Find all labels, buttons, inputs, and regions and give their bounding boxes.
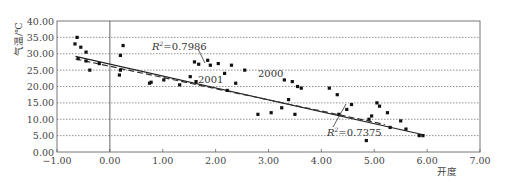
tick-labels: 0.005.0010.0015.0020.0025.0030.0035.0040… bbox=[27, 16, 491, 167]
x-tick-label: 7.00 bbox=[469, 155, 490, 166]
x-axis-title: 开度 bbox=[437, 166, 457, 177]
data-point bbox=[287, 98, 290, 101]
data-point bbox=[98, 62, 101, 65]
data-point bbox=[84, 51, 87, 54]
y-tick-label: 10.00 bbox=[27, 114, 54, 125]
data-point bbox=[256, 113, 259, 116]
x-tick-label: 4.00 bbox=[311, 155, 332, 166]
x-tick-label: 2.00 bbox=[205, 155, 226, 166]
y-tick-label: 30.00 bbox=[27, 48, 54, 59]
data-point bbox=[193, 60, 196, 63]
data-point bbox=[399, 119, 402, 122]
trend-line-2000 bbox=[76, 56, 425, 135]
data-point bbox=[293, 113, 296, 116]
data-point bbox=[77, 57, 80, 60]
data-point bbox=[178, 83, 181, 86]
data-point bbox=[280, 106, 283, 109]
r2-label-2000: R2=0.7375 bbox=[326, 126, 382, 138]
data-point bbox=[75, 36, 78, 39]
data-point bbox=[197, 63, 200, 66]
data-point bbox=[421, 134, 424, 137]
data-point bbox=[296, 85, 299, 88]
data-point bbox=[234, 82, 237, 85]
data-point bbox=[300, 87, 303, 90]
r2-label-2001: R2=0.7986 bbox=[151, 40, 207, 52]
data-point bbox=[217, 62, 220, 65]
data-point bbox=[389, 126, 392, 129]
data-point bbox=[150, 81, 153, 84]
data-point bbox=[119, 54, 122, 57]
annotations: R2=0.7986 2001 2000 R2=0.7375 开度 气温/℃ bbox=[13, 22, 457, 177]
data-point bbox=[365, 139, 368, 142]
x-tick-label: 0.00 bbox=[99, 155, 120, 166]
series-label-2001: 2001 bbox=[198, 74, 223, 85]
data-point bbox=[118, 73, 121, 76]
scatter-chart: 0.005.0010.0015.0020.0025.0030.0035.0040… bbox=[0, 0, 506, 182]
y-axis-title: 气温/℃ bbox=[13, 22, 24, 56]
data-point bbox=[226, 89, 229, 92]
y-tick-label: 20.00 bbox=[27, 81, 54, 92]
y-tick-label: 15.00 bbox=[27, 97, 54, 108]
data-point bbox=[418, 134, 421, 137]
data-point bbox=[119, 69, 122, 72]
data-point bbox=[270, 111, 273, 114]
data-point bbox=[367, 118, 370, 121]
y-tick-label: 5.00 bbox=[33, 130, 54, 141]
x-tick-label: 5.00 bbox=[364, 155, 385, 166]
data-point bbox=[375, 101, 378, 104]
data-point bbox=[73, 42, 76, 45]
data-point bbox=[79, 46, 82, 49]
data-point bbox=[206, 59, 209, 62]
data-point bbox=[350, 103, 353, 106]
data-point bbox=[121, 44, 124, 47]
data-point bbox=[370, 114, 373, 117]
series-label-2000: 2000 bbox=[258, 68, 283, 79]
data-point bbox=[223, 72, 226, 75]
data-point bbox=[88, 69, 91, 72]
x-tick-label: 1.00 bbox=[152, 155, 173, 166]
data-point bbox=[378, 105, 381, 108]
data-point bbox=[209, 64, 212, 67]
data-point bbox=[162, 78, 165, 81]
y-tick-label: 35.00 bbox=[27, 32, 54, 43]
data-point bbox=[189, 75, 192, 78]
data-point bbox=[243, 69, 246, 72]
trend-lines bbox=[76, 56, 425, 135]
x-tick-label: −1.00 bbox=[42, 155, 71, 166]
data-point bbox=[386, 111, 389, 114]
data-point bbox=[291, 80, 294, 83]
y-tick-label: 25.00 bbox=[27, 65, 54, 76]
grid-lines bbox=[57, 37, 480, 135]
data-point bbox=[230, 64, 233, 67]
data-point bbox=[336, 93, 339, 96]
data-point bbox=[84, 59, 87, 62]
data-point bbox=[404, 127, 407, 130]
data-point bbox=[328, 87, 331, 90]
y-tick-label: 40.00 bbox=[27, 16, 54, 27]
x-tick-label: 6.00 bbox=[417, 155, 438, 166]
data-point bbox=[345, 108, 348, 111]
x-tick-label: 3.00 bbox=[258, 155, 279, 166]
